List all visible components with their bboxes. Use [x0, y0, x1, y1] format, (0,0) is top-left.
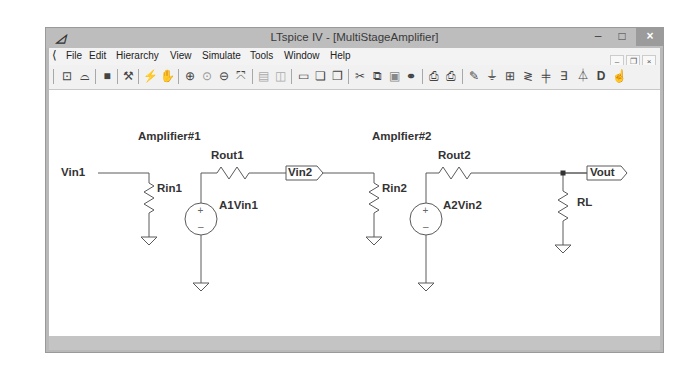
svg-text:–: – [198, 221, 204, 232]
copy-icon[interactable]: ⧉ [370, 69, 384, 83]
draw-wire-icon[interactable]: ✎ [467, 69, 481, 83]
component-icon[interactable]: D [594, 69, 608, 83]
window-title: LTspice IV - [MultiStageAmplifier] [46, 31, 663, 43]
vin1-net-label[interactable]: Vin1 [61, 166, 85, 178]
control-panel-icon[interactable]: ⚒ [121, 69, 135, 83]
ground-icon[interactable]: ⏚ [485, 69, 499, 83]
halt-icon[interactable]: ✋ [160, 69, 174, 83]
vin2-net-flag[interactable]: Vin2 [288, 166, 312, 178]
ltspice-window: ◿ LTspice IV - [MultiStageAmplifier] – □… [45, 27, 664, 353]
paste-icon[interactable]: ▣ [387, 69, 401, 83]
tile-windows-icon[interactable]: ▭ [296, 69, 310, 83]
open-icon[interactable]: ⌓ [77, 69, 91, 83]
label-net-icon[interactable]: ⊞ [503, 69, 517, 83]
menu-simulate[interactable]: Simulate [202, 50, 241, 61]
new-schematic-icon[interactable]: ⊡ [60, 69, 74, 83]
inductor-icon[interactable]: ∃ [557, 69, 571, 83]
svg-text:+: + [423, 205, 429, 216]
menu-tools[interactable]: Tools [250, 50, 273, 61]
print-icon[interactable]: ⎙ [444, 69, 458, 83]
menu-view[interactable]: View [170, 50, 192, 61]
rin1-label[interactable]: Rin1 [157, 182, 182, 194]
move-hand-icon[interactable]: ☝ [612, 69, 626, 83]
capacitor-icon[interactable]: ╪ [539, 69, 553, 83]
cascade-windows-icon[interactable]: ❏ [313, 69, 327, 83]
menu-help[interactable]: Help [330, 50, 351, 61]
svg-text:–: – [423, 221, 429, 232]
svg-text:+: + [198, 205, 204, 216]
menu-hierarchy[interactable]: Hierarchy [116, 50, 159, 61]
zoom-fit-icon[interactable]: ⤧ [234, 69, 248, 83]
save-icon[interactable]: ■ [100, 69, 114, 83]
close-window-icon[interactable]: ❐ [330, 69, 344, 83]
zoom-out-icon[interactable]: ⊖ [217, 69, 231, 83]
amplifier1-label: Amplifier#1 [138, 130, 201, 142]
a1vin1-source-label[interactable]: A1Vin1 [219, 199, 258, 211]
menu-edit[interactable]: Edit [89, 50, 106, 61]
junction-dot [561, 171, 566, 176]
title-bar[interactable]: ◿ LTspice IV - [MultiStageAmplifier] – □… [46, 28, 663, 48]
rin2-label[interactable]: Rin2 [382, 182, 407, 194]
pan-icon[interactable]: ⊙ [200, 69, 214, 83]
amplifier2-label: Amplfier#2 [372, 130, 431, 142]
rout1-label[interactable]: Rout1 [211, 149, 244, 161]
document-icon[interactable]: ⟨ [52, 48, 57, 62]
schematic-canvas[interactable]: + – + – Amplifier#1 Amplfier#2 Vin1 Rin1… [49, 90, 660, 336]
menu-window[interactable]: Window [284, 50, 320, 61]
toolbar: ⊡ ⌓ ■ ⚒ ⚡ ✋ ⊕ ⊙ ⊖ ⤧ ▤ ◫ ▭ ❏ ❐ ✂ ⧉ ▣ ⚭ ⎙ … [49, 65, 660, 90]
cut-icon[interactable]: ✂ [353, 69, 367, 83]
rl-label[interactable]: RL [577, 196, 592, 208]
diode-icon[interactable]: ⏃ [576, 69, 590, 83]
run-icon[interactable]: ⚡ [143, 69, 157, 83]
find-icon[interactable]: ⚭ [404, 69, 418, 83]
vout-net-flag[interactable]: Vout [590, 166, 615, 178]
autorange-icon[interactable]: ▤ [256, 69, 270, 83]
plot-settings-icon[interactable]: ◫ [273, 69, 287, 83]
menu-bar: ⟨ File Edit Hierarchy View Simulate Tool… [49, 48, 660, 65]
print-preview-icon[interactable]: ⎙ [427, 69, 441, 83]
minimize-button[interactable]: – [588, 28, 608, 46]
menu-file[interactable]: File [66, 50, 82, 61]
close-button[interactable]: × [636, 28, 664, 46]
status-bar [49, 336, 660, 350]
a2vin2-source-label[interactable]: A2Vin2 [443, 199, 482, 211]
resistor-icon[interactable]: ≷ [521, 69, 535, 83]
maximize-button[interactable]: □ [612, 28, 632, 46]
schematic-drawing: + – + – [49, 90, 660, 336]
rout2-label[interactable]: Rout2 [438, 149, 471, 161]
zoom-in-icon[interactable]: ⊕ [183, 69, 197, 83]
